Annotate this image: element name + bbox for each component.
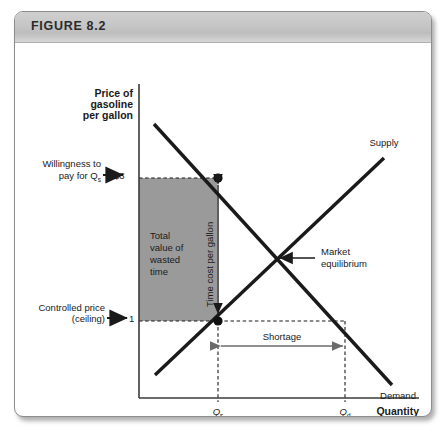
equilibrium-label-line2: equilibrium [321, 258, 367, 269]
figure-title: FIGURE 8.2 [31, 19, 106, 33]
chart-plot-area: Price of gasoline per gallon Willingness… [15, 42, 432, 417]
equilibrium-label-line1: Market [321, 246, 350, 257]
point-quantity-supplied [213, 316, 222, 325]
shortage-label: Shortage [263, 331, 302, 342]
economics-diagram-svg: Price of gasoline per gallon Willingness… [15, 42, 432, 417]
willingness-subscript: s [98, 176, 102, 183]
x-tick-label-qs: Qs [213, 406, 224, 417]
wasted-time-label-line2: value of [150, 242, 184, 253]
demand-label: Demand [380, 390, 416, 401]
supply-label: Supply [369, 137, 398, 148]
figure-card: FIGURE 8.2 [14, 11, 432, 417]
willingness-label-line2: pay for Qs [59, 170, 102, 183]
ceiling-label-line2: (ceiling) [72, 313, 105, 324]
price-ceiling-label: 1 [129, 313, 134, 324]
qd-subscript: d [347, 412, 351, 418]
price-high-label: $3 [114, 170, 125, 181]
time-cost-label: Time cost per gallon [204, 222, 215, 307]
willingness-label-line1: Willingness to [42, 158, 101, 169]
x-tick-label-qd: Qd [339, 406, 350, 417]
wasted-time-label-line4: time [150, 266, 168, 277]
y-axis-label-line3: per gallon [83, 109, 133, 121]
wasted-time-label-line1: Total [150, 230, 170, 241]
x-axis-label: Quantity [376, 405, 419, 417]
qs-subscript: s [220, 412, 224, 418]
ceiling-label-line1: Controlled price [38, 302, 105, 313]
point-willingness-to-pay [213, 173, 222, 182]
wasted-time-label-line3: wasted [149, 254, 180, 265]
